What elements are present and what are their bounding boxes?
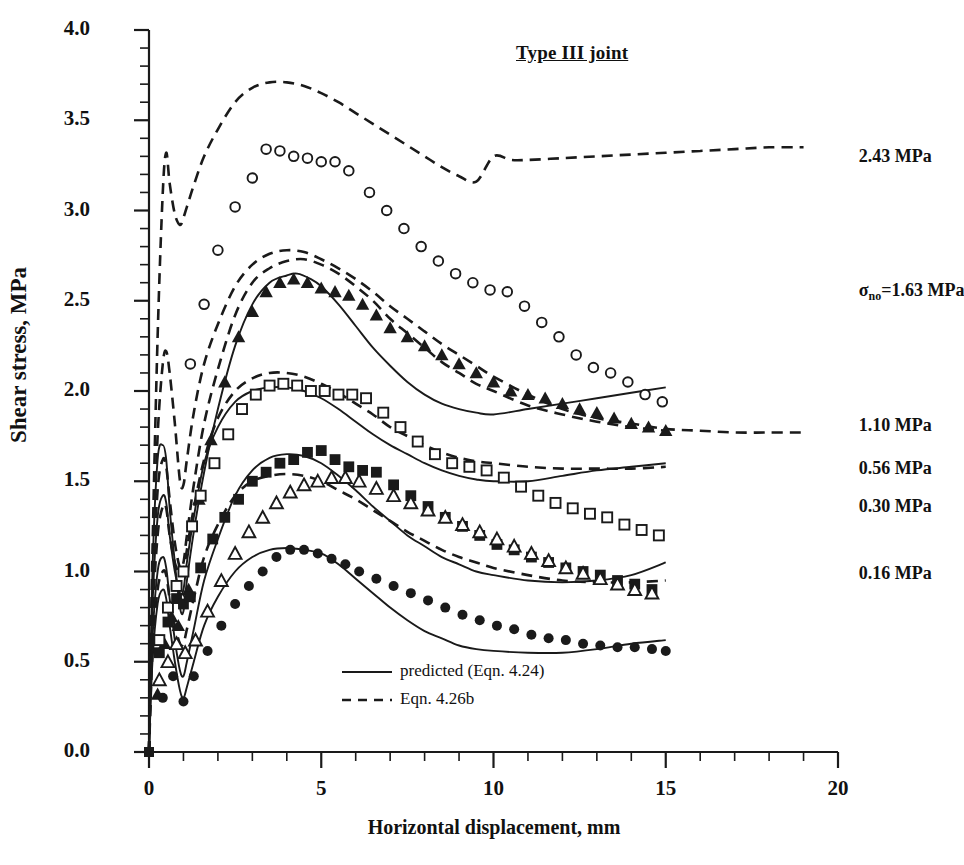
y-tick-label: 4.0	[34, 16, 90, 41]
data-point-filled-triangle	[538, 392, 551, 404]
data-point-open-circle	[537, 318, 547, 328]
data-point-filled-triangle	[521, 388, 534, 400]
data-point-filled-triangle	[273, 276, 286, 288]
data-point-filled-circle	[661, 646, 671, 656]
data-point-open-circle	[468, 278, 478, 288]
data-point-open-square	[499, 473, 509, 483]
data-point-open-circle	[416, 242, 426, 252]
data-point-open-circle	[658, 397, 668, 407]
data-point-open-circle	[451, 269, 461, 279]
data-point-open-circle	[230, 202, 240, 212]
data-point-filled-triangle	[435, 348, 448, 360]
data-point-open-circle	[485, 285, 495, 295]
data-point-filled-circle	[178, 696, 188, 706]
data-point-filled-square	[247, 476, 258, 487]
data-point-filled-circle	[561, 635, 571, 645]
data-point-open-circle	[502, 287, 512, 297]
series-1-63-mpa-measured	[151, 272, 673, 699]
x-tick-label: 20	[813, 776, 863, 801]
data-point-open-square	[654, 530, 664, 540]
data-point-filled-circle	[285, 545, 295, 555]
data-point-open-square	[464, 462, 474, 472]
data-point-filled-triangle	[356, 298, 369, 310]
data-point-open-circle	[589, 363, 599, 373]
chart-title: Type III joint	[516, 42, 628, 64]
data-point-open-circle	[640, 390, 650, 400]
data-point-filled-square	[371, 467, 382, 478]
x-axis-label: Horizontal displacement, mm	[149, 816, 839, 839]
data-point-open-circle	[344, 166, 354, 176]
series-2-43-mpa-predicted-eqn-4-26b	[149, 82, 804, 752]
data-point-filled-circle	[440, 603, 450, 613]
series-label: 0.30 MPa	[859, 496, 932, 517]
data-point-filled-square	[288, 454, 299, 465]
y-tick-label: 0.0	[34, 738, 90, 763]
data-point-open-square	[585, 509, 595, 519]
data-point-open-circle	[213, 245, 223, 255]
y-tick-label: 2.0	[34, 377, 90, 402]
series-label: 2.43 MPa	[859, 146, 932, 167]
data-point-filled-circle	[271, 552, 281, 562]
data-point-open-triangle	[215, 574, 228, 586]
data-point-filled-triangle	[301, 276, 314, 288]
data-point-filled-circle	[371, 574, 381, 584]
origin-marker	[144, 747, 154, 757]
data-point-filled-circle	[327, 554, 337, 564]
data-point-open-square	[619, 520, 629, 530]
data-point-filled-circle	[475, 615, 485, 625]
data-point-filled-square	[207, 534, 218, 545]
data-point-open-square	[172, 581, 182, 591]
data-point-filled-triangle	[625, 417, 638, 429]
data-point-open-triangle	[284, 486, 297, 498]
data-point-open-square	[187, 521, 197, 531]
data-point-open-triangle	[353, 475, 366, 487]
data-point-open-square	[154, 635, 164, 645]
data-point-open-circle	[623, 377, 633, 387]
data-point-open-square	[568, 503, 578, 513]
curve-dashed	[149, 82, 804, 752]
data-point-filled-circle	[595, 641, 605, 651]
data-point-filled-circle	[578, 639, 588, 649]
data-point-open-circle	[199, 300, 209, 310]
data-point-open-triangle	[387, 489, 400, 501]
legend-label: predicted (Eqn. 4.24)	[400, 661, 544, 681]
data-point-open-square	[333, 390, 343, 400]
data-point-open-circle	[554, 332, 564, 342]
data-point-open-square	[196, 491, 206, 501]
data-point-filled-square	[261, 467, 272, 478]
data-point-filled-circle	[630, 642, 640, 652]
series-label: 1.10 MPa	[859, 415, 932, 436]
data-point-open-square	[361, 393, 371, 403]
data-point-open-square	[533, 491, 543, 501]
data-point-filled-square	[316, 445, 327, 456]
data-point-open-square	[292, 381, 302, 391]
data-point-open-triangle	[243, 525, 256, 537]
y-axis-label-text: Shear stress, MPa	[6, 205, 32, 505]
data-point-open-square	[306, 386, 316, 396]
data-point-filled-square	[163, 617, 174, 628]
x-tick-label: 15	[641, 776, 691, 801]
data-point-open-circle	[289, 152, 299, 162]
data-point-open-triangle	[270, 497, 283, 509]
data-point-filled-triangle	[246, 305, 259, 317]
data-point-filled-circle	[613, 642, 623, 652]
data-point-open-circle	[399, 224, 409, 234]
data-point-open-square	[209, 458, 219, 468]
data-point-open-circle	[606, 368, 616, 378]
data-point-filled-triangle	[218, 375, 231, 387]
data-point-filled-circle	[457, 610, 467, 620]
data-point-filled-circle	[389, 581, 399, 591]
data-point-filled-circle	[189, 671, 199, 681]
data-point-open-square	[237, 404, 247, 414]
data-point-filled-triangle	[232, 330, 245, 342]
data-point-filled-circle	[299, 545, 309, 555]
data-point-filled-square	[154, 647, 165, 658]
data-point-open-triangle	[153, 673, 166, 685]
data-point-open-triangle	[256, 511, 269, 523]
data-point-filled-circle	[158, 693, 168, 703]
data-point-filled-triangle	[328, 285, 341, 297]
data-point-open-circle	[520, 301, 530, 311]
data-point-open-square	[251, 390, 261, 400]
